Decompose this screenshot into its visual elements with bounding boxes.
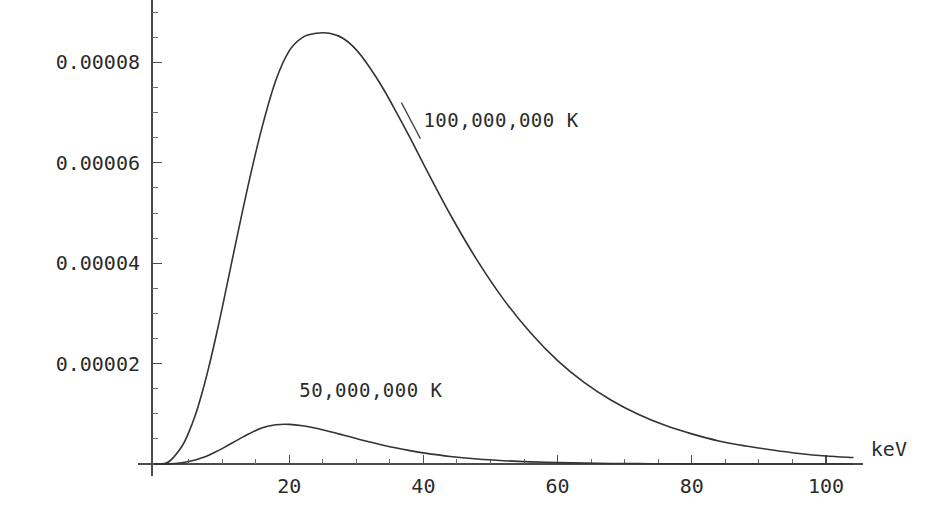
x-axis-tick-labels: 20406080100 xyxy=(277,474,844,498)
curve-series-0 xyxy=(155,33,853,464)
chart-container: 20406080100 0.000020.000040.000060.00008… xyxy=(0,0,948,528)
curve-series-1 xyxy=(155,424,853,464)
y-tick-label: 0.00004 xyxy=(56,251,140,275)
x-tick-label: 60 xyxy=(546,474,570,498)
x-tick-label: 20 xyxy=(277,474,301,498)
y-axis-tick-labels: 0.000020.000040.000060.00008 xyxy=(56,50,140,375)
data-curves xyxy=(155,33,853,464)
series-label-100-million-k: 100,000,000 K xyxy=(423,109,578,131)
series-label-50-million-k: 50,000,000 K xyxy=(299,379,442,401)
y-tick-label: 0.00002 xyxy=(56,352,140,376)
x-axis-title: keV xyxy=(871,437,907,461)
y-tick-label: 0.00008 xyxy=(56,50,140,74)
x-tick-label: 40 xyxy=(411,474,435,498)
y-axis-ticks xyxy=(152,12,162,439)
axes-group xyxy=(138,0,863,476)
x-tick-label: 100 xyxy=(808,474,844,498)
leader-line-100-million-k xyxy=(401,103,420,139)
spectrum-chart: 20406080100 0.000020.000040.000060.00008… xyxy=(0,0,948,528)
annotation-leader-lines xyxy=(401,103,420,139)
x-tick-label: 80 xyxy=(680,474,704,498)
y-tick-label: 0.00006 xyxy=(56,151,140,175)
x-axis-ticks xyxy=(189,455,826,464)
